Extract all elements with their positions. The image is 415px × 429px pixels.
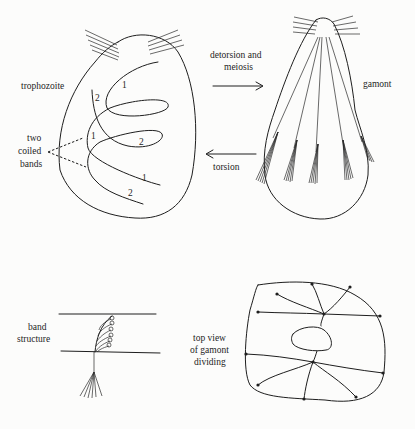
top-view-outline [245, 282, 385, 401]
two-coiled-bands-label: bands [20, 159, 42, 169]
pointer-line [48, 152, 86, 167]
band-bottom-line [61, 351, 160, 353]
gamont-body-outline [264, 18, 368, 219]
top-view-label: dividing [194, 357, 226, 367]
two-coiled-bands-label: coiled [18, 146, 41, 156]
pointer-line [48, 138, 83, 152]
top-view-label: of gamont [190, 345, 229, 355]
band-number-label: 2 [95, 93, 100, 103]
gamont-tuft [309, 144, 318, 184]
diagram-canvas: 1 2 1 2 1 2 trophozoite two coiled bands… [0, 0, 415, 429]
band-number-label: 1 [122, 80, 127, 90]
band-structure-figure [59, 314, 160, 398]
band-number-label: 2 [128, 188, 133, 198]
cilia-tuft-right [148, 30, 184, 54]
top-view-figure [244, 282, 385, 401]
detorsion-label: detorsion and [210, 50, 262, 60]
gamont-tuft [361, 136, 374, 162]
band-number-label: 1 [142, 173, 147, 183]
gamont-tuft [284, 140, 297, 182]
band-structure-label: band [28, 322, 47, 332]
detorsion-label: meiosis [224, 62, 253, 72]
gamont-tuft [343, 140, 353, 180]
arrow-right [213, 82, 263, 90]
gamont-figure [256, 16, 374, 219]
top-view-label: top view [193, 333, 226, 343]
band-number-label: 1 [91, 131, 96, 141]
two-coiled-bands-label: two [27, 133, 42, 143]
trophozoite-label: trophozoite [21, 81, 64, 91]
band-structure-label: structure [17, 334, 50, 344]
gamont-tuft [256, 132, 278, 184]
gamont-bands [273, 37, 362, 152]
cilia-tuft-left [85, 30, 119, 60]
torsion-label: torsion [213, 162, 240, 172]
central-nucleus [292, 327, 332, 351]
band-number-label: 2 [139, 137, 144, 147]
trophozoite-figure: 1 2 1 2 1 2 [48, 30, 196, 218]
gamont-label: gamont [363, 79, 392, 89]
coiled-band-2 [88, 90, 163, 204]
arrow-left [206, 150, 256, 158]
